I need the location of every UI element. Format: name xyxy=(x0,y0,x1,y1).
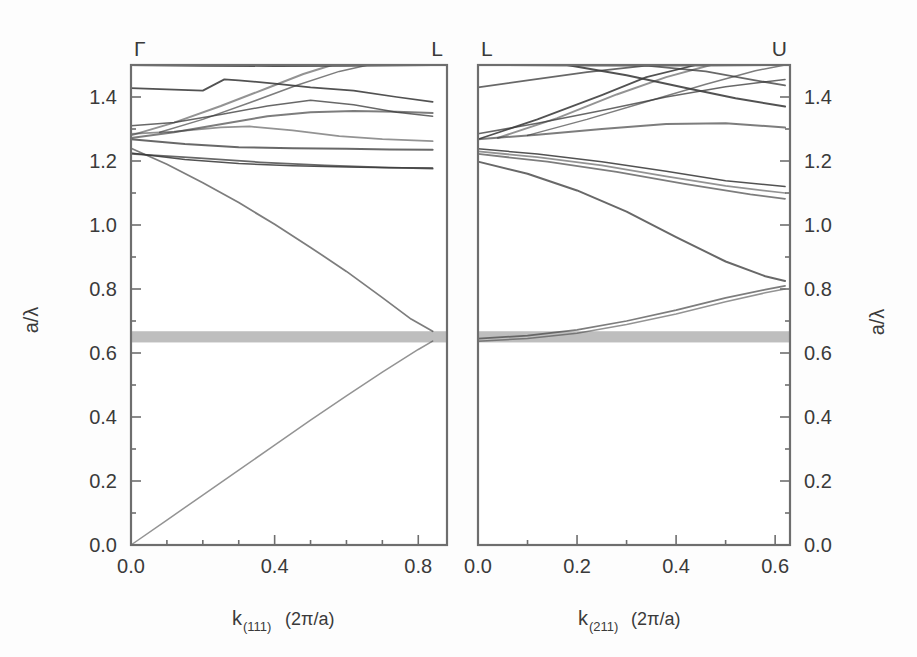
right-x-tick-label: 0.2 xyxy=(563,555,591,577)
left-y-tick-labels: 0.00.20.40.60.81.01.21.4 xyxy=(89,86,117,556)
right-y-tick-label: 1.0 xyxy=(804,214,832,236)
right-plot-background xyxy=(478,65,790,545)
right-panel: L U 0.00.20.40.6 0.00.20.40.60.81.01.21.… xyxy=(464,37,888,634)
left-x-tick-labels: 0.00.40.8 xyxy=(117,555,432,577)
left-x-tick-label: 0.8 xyxy=(404,555,432,577)
right-x-axis-title-base: k xyxy=(578,607,589,629)
left-band-gap-region xyxy=(131,331,447,342)
band-structure-figure: Γ L 0.00.40.8 0.00.20.40.60.81.01.21.4 a… xyxy=(0,0,917,657)
left-panel: Γ L 0.00.40.8 0.00.20.40.60.81.01.21.4 a… xyxy=(20,37,447,634)
left-y-tick-label: 0.2 xyxy=(89,470,117,492)
left-x-axis-title-subscript: (111) xyxy=(243,619,271,634)
right-symmetry-label-l: L xyxy=(481,37,493,60)
left-x-axis-title-base: k xyxy=(232,607,243,629)
left-x-tick-label: 0.4 xyxy=(261,555,289,577)
right-symmetry-label-u: U xyxy=(772,37,787,60)
left-symmetry-label-l: L xyxy=(431,37,443,60)
right-y-axis-title: a/λ xyxy=(866,309,888,336)
left-y-tick-label: 1.2 xyxy=(89,150,117,172)
right-y-tick-label: 1.4 xyxy=(804,86,832,108)
band-structure-plot: Γ L 0.00.40.8 0.00.20.40.60.81.01.21.4 a… xyxy=(0,0,917,657)
right-y-tick-label: 0.4 xyxy=(804,406,832,428)
right-y-tick-label: 0.0 xyxy=(804,534,832,556)
left-y-tick-label: 1.4 xyxy=(89,86,117,108)
left-x-axis-title-unit: (2π/a) xyxy=(285,609,334,629)
right-x-axis-title: k (211) (2π/a) xyxy=(578,607,680,634)
right-y-tick-labels: 0.00.20.40.60.81.01.21.4 xyxy=(804,86,832,556)
left-y-tick-label: 0.4 xyxy=(89,406,117,428)
left-y-tick-label: 0.0 xyxy=(89,534,117,556)
left-x-tick-label: 0.0 xyxy=(117,555,145,577)
right-x-tick-label: 0.6 xyxy=(761,555,789,577)
right-y-tick-label: 0.2 xyxy=(804,470,832,492)
right-x-tick-labels: 0.00.20.40.6 xyxy=(464,555,789,577)
left-plot-background xyxy=(131,65,447,545)
left-y-tick-label: 1.0 xyxy=(89,214,117,236)
left-y-axis-title: a/λ xyxy=(20,307,42,334)
right-band-gap-region xyxy=(478,331,790,342)
right-y-tick-label: 1.2 xyxy=(804,150,832,172)
right-x-axis-title-unit: (2π/a) xyxy=(631,609,680,629)
right-x-tick-label: 0.0 xyxy=(464,555,492,577)
left-y-tick-label: 0.6 xyxy=(89,342,117,364)
right-x-tick-label: 0.4 xyxy=(662,555,690,577)
left-symmetry-label-gamma: Γ xyxy=(134,37,146,60)
right-x-axis-title-subscript: (211) xyxy=(589,619,618,634)
right-y-tick-label: 0.8 xyxy=(804,278,832,300)
left-x-axis-title: k (111) (2π/a) xyxy=(232,607,334,634)
left-y-tick-label: 0.8 xyxy=(89,278,117,300)
right-y-tick-label: 0.6 xyxy=(804,342,832,364)
